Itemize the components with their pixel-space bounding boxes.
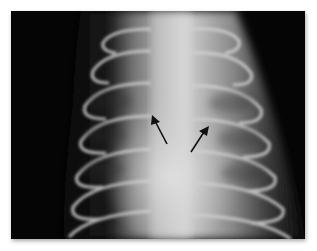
xray-image [11,11,305,239]
xray-svg [11,11,305,239]
